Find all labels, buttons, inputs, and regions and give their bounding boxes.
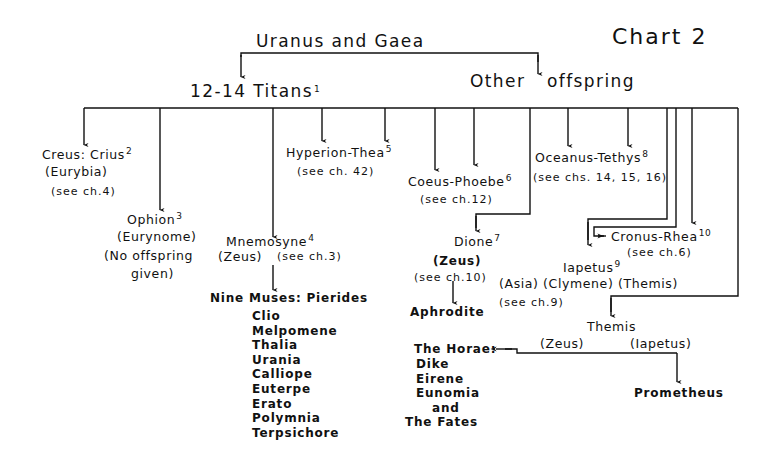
other-offspring-a: Other: [470, 73, 525, 90]
muse: Erato: [252, 397, 339, 412]
node-name: Dione: [454, 234, 493, 249]
dione-consort: (Zeus): [433, 255, 481, 267]
themis-consort-iapetus: (Iapetus): [630, 338, 691, 351]
footnote-marker: 10: [699, 228, 712, 238]
creus-ref: (see ch.4): [51, 186, 116, 197]
node-hyperion-thea: Hyperion-Thea5: [286, 145, 392, 160]
mnemosyne-ref: (see ch.3): [277, 251, 342, 262]
node-name: Coeus-Phoebe: [408, 174, 505, 189]
dione-ref: (see ch.10): [414, 272, 487, 283]
node-name: Hyperion-Thea: [286, 145, 385, 160]
muse: Clio: [252, 309, 339, 324]
node-name: Cronus-Rhea: [611, 229, 698, 244]
mnemosyne-consort: (Zeus): [218, 251, 262, 264]
muse: Calliope: [252, 367, 339, 382]
node-dione: Dione7: [454, 234, 501, 249]
footnote-marker: 5: [386, 144, 392, 154]
oceanus-ref: (see chs. 14, 15, 16): [533, 172, 667, 183]
horae-and: and: [416, 401, 480, 416]
genealogy-chart: Uranus and Gaea Chart 2 12-14 Titans1 Ot…: [0, 0, 771, 460]
hora: Eunomia: [416, 386, 480, 401]
node-name: Mnemosyne: [226, 234, 307, 249]
node-aphrodite: Aphrodite: [410, 306, 484, 318]
node-cronus-rhea: Cronus-Rhea10: [611, 229, 711, 244]
footnote-marker: 8: [642, 149, 648, 159]
root-parents: Uranus and Gaea: [256, 33, 425, 50]
titans-label: 12-14 Titans: [190, 81, 313, 101]
horae-list: Dike Eirene Eunomia and The Fates: [416, 357, 480, 430]
hora: Eirene: [416, 372, 480, 387]
footnote-marker: 7: [494, 233, 500, 243]
creus-consort: (Eurybia): [45, 166, 108, 179]
node-name: Creus: Crius: [42, 147, 125, 162]
cronus-ref: (see ch.6): [627, 247, 692, 258]
node-mnemosyne: Mnemosyne4: [226, 234, 314, 249]
node-name: Oceanus-Tethys: [535, 150, 641, 165]
muses-list: Clio Melpomene Thalia Urania Calliope Eu…: [252, 309, 339, 440]
other-offspring-b: offspring: [547, 73, 635, 90]
footnote-marker: 1: [314, 84, 321, 94]
muse: Urania: [252, 353, 339, 368]
muse: Terpsichore: [252, 426, 339, 441]
node-name: Iapetus: [563, 260, 614, 275]
hora: Dike: [416, 357, 480, 372]
muse: Thalia: [252, 338, 339, 353]
footnote-marker: 9: [615, 259, 621, 269]
iapetus-ref: (see ch.9): [499, 297, 564, 308]
titans-heading: 12-14 Titans1: [190, 83, 321, 100]
ophion-consort: (Eurynome): [117, 231, 197, 244]
themis-consort-zeus: (Zeus): [540, 338, 584, 351]
hyperion-ref: (see ch. 42): [297, 166, 374, 177]
footnote-marker: 4: [308, 233, 314, 243]
node-prometheus: Prometheus: [634, 387, 724, 399]
muse: Euterpe: [252, 382, 339, 397]
node-themis: Themis: [587, 321, 636, 334]
muses-heading: Nine Muses: Pierides: [210, 292, 368, 304]
node-ophion: Ophion3: [127, 212, 183, 227]
node-oceanus-tethys: Oceanus-Tethys8: [535, 150, 648, 165]
footnote-marker: 6: [506, 173, 512, 183]
horae-heading: The Horae:: [414, 343, 496, 355]
muse: Melpomene: [252, 324, 339, 339]
node-name: Ophion: [127, 212, 175, 227]
footnote-marker: 2: [126, 146, 132, 156]
ophion-ref-a: (No offspring: [104, 250, 193, 263]
footnote-marker: 3: [176, 211, 182, 221]
node-creus: Creus: Crius2: [42, 147, 132, 162]
iapetus-consorts: (Asia) (Clymene) (Themis): [499, 278, 678, 291]
fates: The Fates: [405, 415, 480, 430]
node-iapetus: Iapetus9: [563, 260, 621, 275]
chart-title: Chart 2: [612, 26, 707, 48]
muse: Polymnia: [252, 411, 339, 426]
coeus-ref: (see ch.12): [420, 194, 493, 205]
node-coeus-phoebe: Coeus-Phoebe6: [408, 174, 512, 189]
ophion-ref-b: given): [131, 268, 174, 281]
